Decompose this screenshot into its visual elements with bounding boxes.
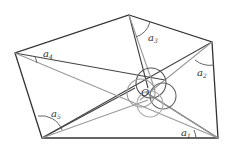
pentagon-diagram: a4 a3 a2 a5 a1 O	[0, 0, 230, 150]
angle-arcs	[35, 22, 214, 138]
center-label-o: O	[141, 87, 149, 98]
pentagon-outline	[15, 15, 218, 138]
angle-label-a1: a1	[181, 127, 191, 139]
angle-label-a5: a5	[51, 108, 61, 120]
angle-label-a3: a3	[148, 32, 158, 44]
angle-label-a2: a2	[197, 67, 207, 79]
angle-label-a4: a4	[43, 48, 53, 60]
